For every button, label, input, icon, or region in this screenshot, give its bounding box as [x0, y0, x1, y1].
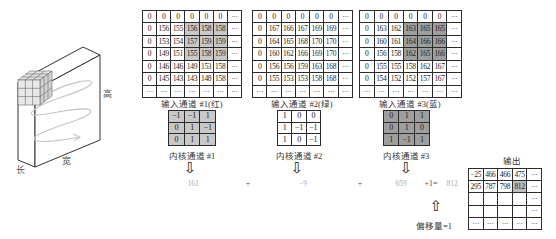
- kernel-cell: 1: [278, 122, 292, 134]
- matrix-cell: 159: [295, 60, 309, 72]
- matrix-cell-highlighted: 163: [403, 23, 418, 35]
- matrix-cell: 157: [418, 73, 433, 85]
- matrix-cell: 0: [157, 11, 171, 23]
- matrix-cell: ···: [199, 85, 213, 97]
- output-cell: ···: [527, 169, 542, 181]
- matrix-cell: 0: [360, 73, 375, 85]
- matrix-cell: 143: [185, 73, 199, 85]
- width-axis-label: 宽: [62, 154, 71, 167]
- output-cell: 475: [512, 169, 527, 181]
- matrix-cell-highlighted: 165: [432, 23, 447, 35]
- matrix-cell: 166: [295, 48, 309, 60]
- output-cell: [483, 205, 498, 217]
- matrix-cell: 153: [281, 73, 295, 85]
- matrix-cell: ···: [227, 85, 241, 97]
- matrix-cell: 153: [157, 35, 171, 47]
- matrix-cell: 169: [324, 23, 338, 35]
- matrix-cell: 167: [432, 73, 447, 85]
- matrix-cell: 163: [310, 60, 324, 72]
- matrix-cell: 148: [199, 73, 213, 85]
- matrix-cell: ···: [338, 85, 352, 97]
- matrix-cell: ···: [447, 60, 462, 72]
- kernel-cell: 1: [399, 111, 414, 123]
- matrix-cell: ···: [447, 11, 462, 23]
- filter-cube-icon: [18, 71, 52, 105]
- matrix-cell: 153: [199, 60, 213, 72]
- matrix-cell: 155: [171, 23, 185, 35]
- output-cell: ···: [527, 205, 542, 217]
- matrix-cell: 168: [324, 73, 338, 85]
- matrix-cell: 155: [267, 73, 281, 85]
- matrix-cell: 160: [374, 35, 389, 47]
- output-cell: [483, 193, 498, 205]
- matrix-cell: ···: [338, 73, 352, 85]
- kernel-cell: 1: [399, 122, 414, 134]
- kernel-cell: 0: [384, 111, 399, 123]
- matrix-cell-highlighted: 165: [418, 48, 433, 60]
- kernel-2-result: −9: [299, 179, 307, 188]
- height-axis-label: 高: [103, 87, 112, 100]
- kernel-cell: 1: [414, 134, 429, 146]
- matrix-cell: 0: [295, 11, 309, 23]
- output-cell: ···: [483, 217, 498, 229]
- kernel-cell: 0: [384, 122, 399, 134]
- bias-label: 偏移量=1: [416, 219, 452, 231]
- kernel-cell: 1: [384, 134, 399, 146]
- output-cell: ···: [512, 217, 527, 229]
- matrix-cell: ···: [447, 85, 462, 97]
- matrix-cell: 149: [185, 60, 199, 72]
- kernel-cell: −1: [306, 122, 320, 134]
- input-channel-3-label: 输入通道 #3(蓝): [379, 97, 440, 109]
- matrix-cell: 0: [253, 23, 267, 35]
- input-channel-2-label: 输入通道 #2(绿): [271, 97, 332, 109]
- matrix-cell: 152: [389, 73, 404, 85]
- output-cell: [498, 205, 513, 217]
- matrix-cell: 158: [213, 60, 227, 72]
- matrix-cell-highlighted: 156: [185, 23, 199, 35]
- matrix-cell: 0: [267, 11, 281, 23]
- matrix-cell: 0: [281, 11, 295, 23]
- matrix-cell: ···: [447, 23, 462, 35]
- kernel-cell: 0: [169, 122, 185, 134]
- input-channel-1-label: 输入通道 #1(红): [161, 97, 222, 109]
- matrix-cell: ···: [227, 23, 241, 35]
- matrix-cell-highlighted: 162: [403, 48, 418, 60]
- matrix-cell: 167: [295, 23, 309, 35]
- kernel-cell: 1: [278, 111, 292, 123]
- matrix-cell: ···: [324, 85, 338, 97]
- matrix-cell: ···: [447, 73, 462, 85]
- output-cell: ···: [469, 217, 484, 229]
- matrix-cell: 162: [281, 48, 295, 60]
- matrix-cell-highlighted: 159: [213, 48, 227, 60]
- matrix-cell: 156: [281, 60, 295, 72]
- matrix-cell-highlighted: 157: [185, 35, 199, 47]
- matrix-cell: 166: [281, 23, 295, 35]
- matrix-cell: 0: [360, 60, 375, 72]
- matrix-cell: 151: [171, 48, 185, 60]
- input-volume-illustration: [0, 0, 140, 239]
- matrix-cell: 155: [374, 60, 389, 72]
- convolution-diagram: 高 宽 长 000000··· 0156155156158158··· 0153…: [0, 0, 556, 239]
- matrix-cell: ···: [157, 85, 171, 97]
- matrix-cell: ···: [447, 48, 462, 60]
- matrix-cell-highlighted: 158: [199, 23, 213, 35]
- kernel-cell: 0: [306, 111, 320, 123]
- matrix-cell: 163: [374, 23, 389, 35]
- matrix-cell: ···: [374, 85, 389, 97]
- matrix-cell: ···: [403, 85, 418, 97]
- output-cell: 295: [469, 181, 484, 193]
- kernel-cell: 1: [184, 134, 200, 146]
- kernel-channel-3-matrix: 011 010 1−11: [383, 110, 430, 146]
- input-channel-3-matrix: 000000··· 0163162163165165··· 0160161164…: [359, 10, 462, 98]
- matrix-cell: 158: [389, 48, 404, 60]
- matrix-cell: 0: [199, 11, 213, 23]
- plus-sign: +: [246, 179, 251, 188]
- matrix-cell: ···: [360, 85, 375, 97]
- matrix-cell: 158: [310, 73, 324, 85]
- matrix-cell: 156: [157, 23, 171, 35]
- output-cell: 466: [498, 169, 513, 181]
- matrix-cell: ···: [447, 35, 462, 47]
- kernel-cell: −1: [184, 111, 200, 123]
- matrix-cell: 0: [253, 11, 267, 23]
- output-cell: [512, 193, 527, 205]
